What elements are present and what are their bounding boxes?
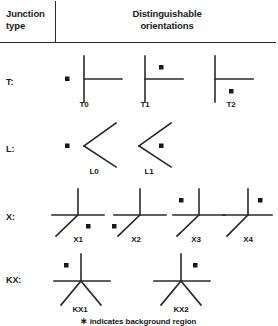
background-region-star (258, 198, 263, 203)
junction-x2-glyph (108, 188, 168, 240)
header-orientations-line1: Distinguishable (60, 8, 274, 20)
junction-l0-label: L0 (64, 167, 124, 176)
row-l: L: L0 L1 (0, 122, 276, 182)
junction-x3: X3 (167, 188, 227, 240)
header-horizontal-rule (0, 42, 276, 43)
row-t: T: T0 T1 (0, 55, 276, 115)
junction-x3-glyph (167, 188, 227, 240)
junction-x1-label: X1 (48, 235, 108, 244)
background-region-star (64, 263, 69, 268)
junction-kx1-glyph (48, 253, 128, 307)
junction-x4: X4 (222, 188, 276, 240)
row-kx: KX: KX1 (0, 253, 276, 315)
junction-t1: T1 (135, 55, 203, 107)
table-header: Junction type Distinguishable orientatio… (0, 0, 276, 42)
junction-kx1-label: KX1 (50, 305, 110, 314)
junction-l1: L1 (135, 122, 215, 174)
junction-x1-glyph (48, 188, 108, 240)
junction-kx1: KX1 (48, 253, 128, 307)
header-distinguishable-orientations: Distinguishable orientations (60, 8, 274, 31)
junction-x2-label: X2 (106, 235, 166, 244)
junction-x3-label: X3 (166, 235, 226, 244)
junction-kx2: KX2 (148, 253, 228, 307)
junction-t2: T2 (205, 55, 273, 107)
header-vertical-divider (55, 1, 56, 42)
header-junction-type: Junction type (6, 8, 52, 31)
row-x: X: X1 X2 (0, 188, 276, 250)
header-orientations-line2: orientations (60, 20, 274, 32)
background-region-star (193, 263, 198, 268)
row-label-kx: KX: (6, 275, 21, 285)
junction-kx2-glyph (148, 253, 228, 307)
background-region-star (112, 224, 117, 229)
junction-x1: X1 (48, 188, 108, 240)
row-label-t: T: (6, 77, 13, 87)
background-region-star (229, 89, 234, 94)
background-region-star (159, 144, 164, 149)
header-junction-type-line2: type (6, 20, 52, 32)
junction-kx2-label: KX2 (151, 305, 211, 314)
header-junction-type-line1: Junction (6, 8, 52, 20)
row-label-l: L: (6, 144, 14, 154)
background-region-star (86, 224, 91, 229)
footnote: ∗ indicates background region (0, 316, 276, 326)
background-region-star (179, 198, 184, 203)
junction-l1-label: L1 (119, 167, 179, 176)
footnote-star-icon: ∗ (80, 316, 88, 326)
junction-x4-label: X4 (218, 235, 278, 244)
junction-t0-label: T0 (54, 100, 114, 109)
footnote-text: indicates background region (90, 317, 197, 326)
junction-t2-label: T2 (201, 100, 261, 109)
row-label-x: X: (6, 212, 15, 222)
junction-x2: X2 (108, 188, 168, 240)
junction-x4-glyph (222, 188, 276, 240)
background-region-star (65, 77, 70, 82)
junction-t1-label: T1 (115, 100, 175, 109)
background-region-star (65, 144, 70, 149)
background-region-star (159, 65, 164, 70)
